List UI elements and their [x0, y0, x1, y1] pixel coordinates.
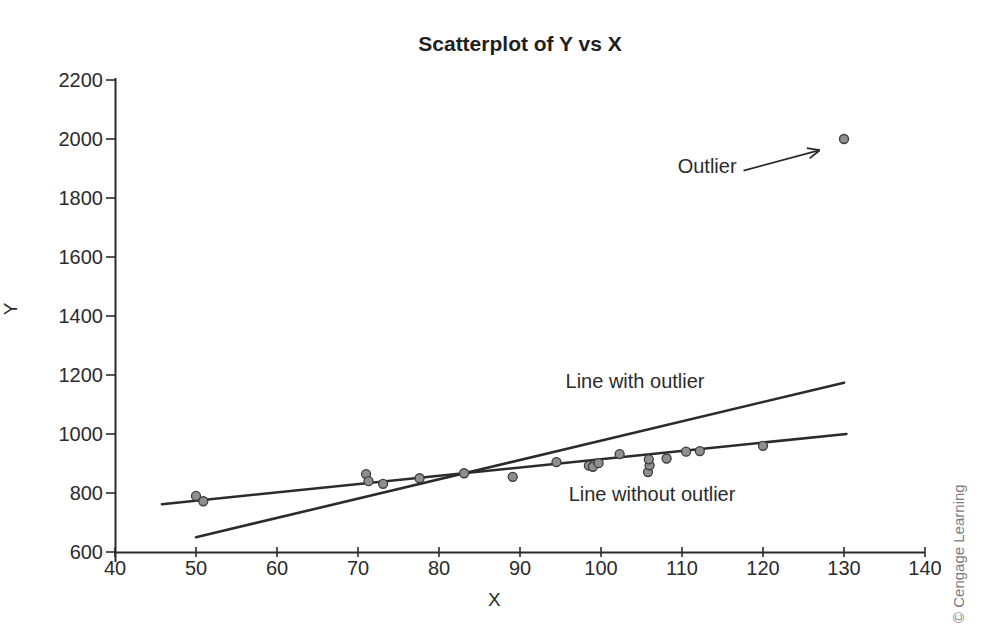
data-point: [199, 497, 208, 506]
plot-canvas: 4050607080901001101201301406008001000120…: [0, 0, 989, 636]
x-tick-label: 100: [584, 557, 617, 579]
data-point: [364, 477, 373, 486]
x-tick-label: 40: [104, 557, 126, 579]
x-tick-label: 110: [666, 557, 698, 579]
y-tick-label: 1000: [59, 423, 104, 445]
data-point: [594, 459, 603, 468]
y-tick-label: 1800: [59, 187, 104, 209]
y-axis-label: Y: [0, 303, 22, 316]
x-tick-label: 90: [509, 557, 531, 579]
data-point: [615, 450, 624, 459]
data-point: [840, 135, 849, 144]
annotation-line-without-outlier: Line without outlier: [569, 483, 736, 505]
y-tick-label: 1200: [59, 364, 104, 386]
regression-line-with-outlier: [196, 383, 844, 538]
y-tick-label: 2000: [59, 128, 104, 150]
y-tick-label: 2200: [59, 69, 104, 91]
x-tick-label: 60: [266, 557, 288, 579]
x-axis-label: X: [488, 589, 501, 611]
data-point: [379, 479, 388, 488]
outlier-arrow: [744, 150, 820, 170]
x-tick-label: 70: [347, 557, 369, 579]
x-tick-label: 80: [428, 557, 450, 579]
annotation-outlier: Outlier: [678, 155, 737, 177]
annotation-line-with-outlier: Line with outlier: [566, 370, 705, 392]
data-point: [644, 455, 653, 464]
data-point: [662, 454, 671, 463]
x-tick-label: 140: [908, 557, 941, 579]
y-tick-label: 800: [70, 482, 103, 504]
data-point: [682, 447, 691, 456]
x-tick-label: 120: [746, 557, 779, 579]
x-tick-label: 130: [827, 557, 860, 579]
copyright-text: © Cengage Learning: [950, 484, 967, 623]
y-tick-label: 1400: [59, 305, 104, 327]
data-point: [759, 441, 768, 450]
y-tick-label: 600: [70, 541, 103, 563]
data-point: [415, 474, 424, 483]
data-point: [695, 447, 704, 456]
outlier-arrow-head: [807, 148, 820, 150]
regression-line-without-outlier: [162, 434, 846, 504]
y-tick-label: 1600: [59, 246, 104, 268]
data-point: [552, 458, 561, 467]
data-point: [460, 469, 469, 478]
data-point: [508, 472, 517, 481]
x-tick-label: 50: [185, 557, 207, 579]
